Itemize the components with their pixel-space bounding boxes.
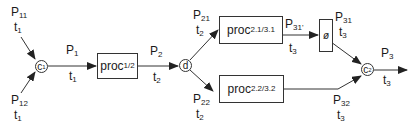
label-p31-prime: P31' (285, 18, 303, 30)
label-p22-time: t2 (196, 108, 204, 120)
edge-p32 (283, 76, 361, 89)
label-p2-time: t2 (153, 71, 161, 83)
label-p31: P31 (335, 11, 352, 23)
edge-p11 (21, 37, 35, 59)
node-c2: c2 (361, 63, 374, 76)
label-p31-prime-time: t3 (289, 42, 297, 54)
label-p11: P11 (11, 6, 27, 18)
edge-p12 (21, 72, 35, 93)
label-p1: P1 (66, 44, 78, 56)
process-proc-2-1-3-1: proc2.1/3.1 (219, 16, 283, 44)
process-null-phi: ø (319, 19, 333, 52)
label-p22: P22 (193, 93, 210, 105)
edge-p21 (190, 30, 218, 60)
edge-p22 (190, 70, 213, 91)
label-p3: P3 (381, 47, 393, 59)
edge-p31 (331, 42, 361, 64)
label-p12: P12 (11, 94, 28, 106)
label-p32-time: t3 (337, 109, 345, 121)
label-p21: P21 (193, 9, 210, 21)
label-p12-time: t1 (14, 109, 22, 121)
label-p2: P2 (150, 45, 162, 57)
label-p21-time: t2 (196, 24, 204, 36)
node-c1: c1 (35, 60, 48, 73)
label-p3-time: t3 (383, 74, 391, 86)
label-p32: P32 (333, 94, 350, 106)
label-p31-time: t3 (339, 26, 347, 38)
process-proc-1-2: proc1/2 (97, 53, 138, 79)
process-proc-2-2-3-2: proc2.2/3.2 (219, 75, 284, 103)
node-d: d (179, 59, 192, 72)
label-p1-time: t1 (69, 70, 77, 82)
label-p11-time: t1 (14, 21, 22, 33)
